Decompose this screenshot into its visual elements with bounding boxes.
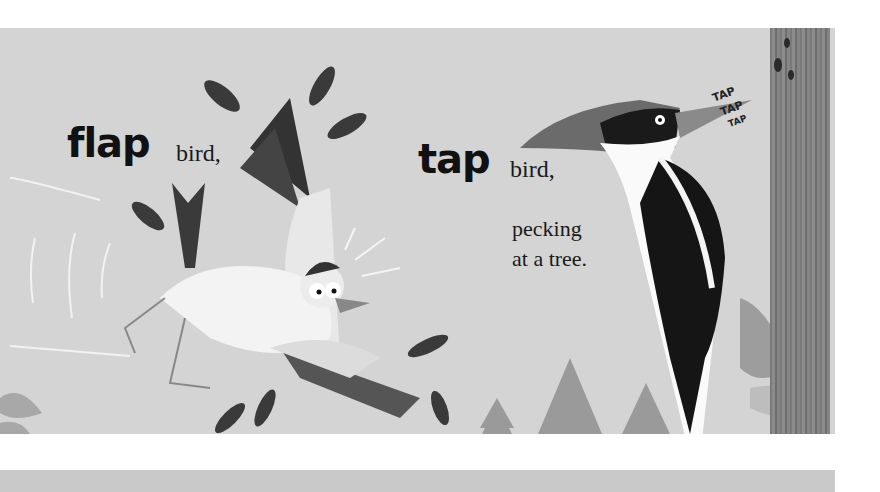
peck-hole bbox=[774, 58, 782, 72]
word-bird-left: bird, bbox=[176, 140, 221, 167]
book-spread: flap bird, tap bird, pecking at a tree. … bbox=[0, 28, 835, 434]
illustration-layer bbox=[0, 28, 835, 434]
motion-lines bbox=[10, 178, 130, 356]
word-tap: tap bbox=[418, 136, 490, 182]
flapping-white-bird bbox=[125, 98, 420, 418]
next-page-edge bbox=[0, 470, 835, 492]
tree-trunk bbox=[770, 28, 830, 434]
pine-trees bbox=[480, 358, 670, 434]
word-flap: flap bbox=[67, 120, 150, 166]
text-pecking: pecking bbox=[512, 216, 582, 242]
text-at-a-tree: at a tree. bbox=[512, 246, 587, 272]
peck-hole bbox=[784, 38, 790, 48]
peck-hole bbox=[788, 70, 794, 80]
word-bird-right: bird, bbox=[510, 156, 555, 183]
